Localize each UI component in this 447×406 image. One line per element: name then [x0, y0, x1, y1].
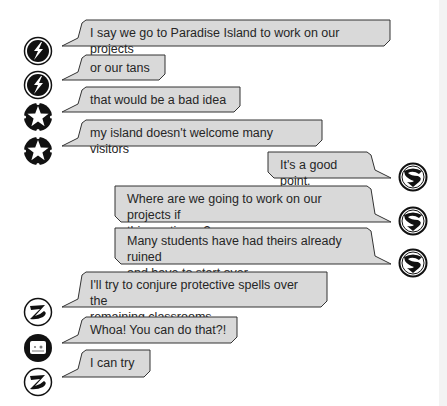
star-icon [23, 136, 53, 166]
message-bubble-incoming: I can try [78, 350, 150, 377]
message-text: I can try [78, 350, 150, 371]
message-bubble-incoming: that would be a bad idea [78, 87, 240, 112]
star-icon [23, 102, 53, 132]
message-bubble-incoming: Whoa! You can do that?! [78, 317, 237, 343]
lightning-bolt-icon [23, 36, 53, 66]
superman-shield-icon [398, 248, 428, 278]
message-bubble-incoming: my island doesn't welcome many visitors [78, 120, 322, 146]
message-text: or our tans [78, 55, 165, 76]
superman-shield-icon [398, 206, 428, 236]
message-bubble-incoming: I say we go to Paradise Island to work o… [78, 20, 390, 46]
message-bubble-incoming: I'll try to conjure protective spells ov… [78, 272, 327, 307]
message-text: It's a good point. [268, 152, 375, 189]
superman-shield-icon [398, 162, 428, 192]
message-bubble-outgoing: Where are we going to work on our projec… [115, 186, 375, 222]
message-text: Whoa! You can do that?! [78, 317, 237, 338]
zatanna-z-icon [23, 367, 53, 397]
scroll-edge [439, 0, 447, 406]
message-text: that would be a bad idea [78, 87, 240, 108]
lightning-bolt-icon [23, 70, 53, 100]
message-bubble-incoming: or our tans [78, 55, 165, 80]
message-text: I say we go to Paradise Island to work o… [78, 20, 390, 57]
robot-face-icon [23, 333, 53, 363]
zatanna-z-icon [23, 297, 53, 327]
message-bubble-outgoing: It's a good point. [268, 152, 375, 178]
message-bubble-outgoing: Many students have had theirs already ru… [115, 228, 375, 264]
